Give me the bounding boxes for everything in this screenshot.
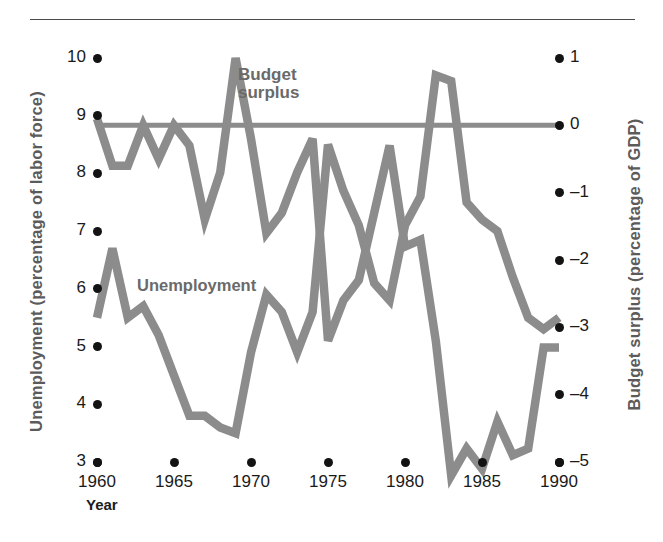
y-left-tick-label-8: 8 <box>52 162 86 182</box>
y-left-tick-label-10: 10 <box>52 47 86 67</box>
y-left-tick-dot-7 <box>93 227 102 236</box>
x-tick-dot-1990 <box>555 458 564 467</box>
y-left-tick-label-3: 3 <box>52 451 86 471</box>
unemployment-line <box>97 75 559 433</box>
y-right-tick-label-5: –4 <box>570 384 610 404</box>
y-right-tick-label-4: –3 <box>570 316 610 336</box>
y-left-tick-label-5: 5 <box>52 336 86 356</box>
x-tick-label-1960: 1960 <box>67 472 127 492</box>
series-label-unemployment: Unemployment <box>137 277 256 295</box>
x-tick-label-1980: 1980 <box>375 472 435 492</box>
y-left-tick-dot-9 <box>93 111 102 120</box>
y-right-tick-label-1: 0 <box>570 114 610 134</box>
y-left-tick-dot-10 <box>93 54 102 63</box>
x-tick-label-1970: 1970 <box>221 472 281 492</box>
x-tick-label-1965: 1965 <box>144 472 204 492</box>
y-right-tick-label-6: –5 <box>570 451 610 471</box>
series-label-budget-surplus: Budget surplus <box>238 66 299 103</box>
x-tick-label-1985: 1985 <box>452 472 512 492</box>
y-right-tick-dot-0 <box>555 54 564 63</box>
y-right-tick-label-3: –2 <box>570 249 610 269</box>
y-left-tick-dot-6 <box>93 284 102 293</box>
y-right-tick-dot-2 <box>555 188 564 197</box>
x-tick-dot-1985 <box>478 458 487 467</box>
x-tick-dot-1980 <box>401 458 410 467</box>
y-right-tick-dot-5 <box>555 390 564 399</box>
x-tick-dot-1960 <box>93 458 102 467</box>
x-tick-label-1975: 1975 <box>298 472 358 492</box>
y-left-tick-dot-4 <box>93 400 102 409</box>
y-left-tick-label-6: 6 <box>52 278 86 298</box>
chart-figure: Unemployment (percentage of labor force)… <box>0 0 663 542</box>
y-right-tick-dot-1 <box>555 121 564 130</box>
x-tick-dot-1970 <box>247 458 256 467</box>
y-right-tick-dot-3 <box>555 256 564 265</box>
y-right-tick-label-0: 1 <box>570 47 610 67</box>
y-left-tick-label-4: 4 <box>52 393 86 413</box>
x-tick-dot-1965 <box>170 458 179 467</box>
x-tick-dot-1975 <box>324 458 333 467</box>
y-right-tick-label-2: –1 <box>570 182 610 202</box>
y-right-tick-dot-4 <box>555 323 564 332</box>
y-left-tick-dot-5 <box>93 342 102 351</box>
y-left-tick-label-9: 9 <box>52 105 86 125</box>
x-tick-label-1990: 1990 <box>529 472 589 492</box>
y-left-tick-label-7: 7 <box>52 220 86 240</box>
budget-surplus-line <box>97 58 559 475</box>
y-left-tick-dot-8 <box>93 169 102 178</box>
